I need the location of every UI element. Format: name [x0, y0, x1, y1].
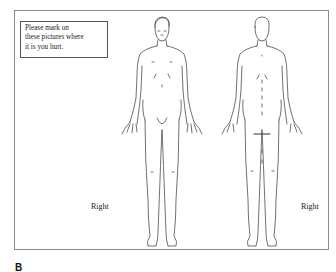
- panel-label: B: [15, 262, 22, 272]
- front-body-figure[interactable]: [122, 17, 202, 246]
- back-right-side-label: Right: [301, 202, 319, 211]
- back-body-figure[interactable]: [222, 17, 302, 246]
- front-right-side-label: Right: [91, 202, 109, 211]
- body-figures: [0, 0, 336, 272]
